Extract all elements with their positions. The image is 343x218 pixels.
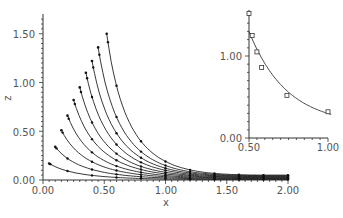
main-y-axis-title: z <box>2 95 13 100</box>
main-x-tick-3: 1.50 <box>216 185 238 196</box>
main-y-tick-1: 0.50 <box>13 127 35 138</box>
chart-canvas: 0.00 0.50 1.00 1.50 0.00 0.50 1.00 1.50 … <box>0 0 343 218</box>
main-ticks <box>39 19 288 184</box>
main-x-tick-1: 0.50 <box>93 185 115 196</box>
inset-x-tick-1: 1.00 <box>317 142 339 153</box>
main-curves <box>48 32 289 180</box>
inset-plot: 0.00 1.00 0.50 1.00 <box>220 10 339 153</box>
inset-x-tick-0: 0.50 <box>238 142 260 153</box>
main-plot: 0.00 0.50 1.00 1.50 0.00 0.50 1.00 1.50 … <box>2 14 299 208</box>
main-x-tick-0: 0.00 <box>32 185 54 196</box>
inset-curve <box>247 11 331 114</box>
main-x-axis-title: x <box>163 197 169 208</box>
inset-y-tick-1: 1.00 <box>220 51 242 62</box>
inset-ticks <box>245 15 328 142</box>
main-y-tick-2: 1.00 <box>13 78 35 89</box>
main-x-tick-4: 2.00 <box>277 185 299 196</box>
main-y-tick-3: 1.50 <box>13 29 35 40</box>
main-x-tick-2: 1.00 <box>155 185 177 196</box>
